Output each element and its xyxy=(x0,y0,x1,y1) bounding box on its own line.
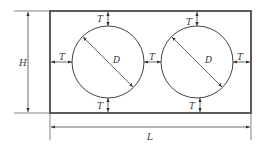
thickness-left: T xyxy=(51,52,72,62)
thickness-right: T xyxy=(233,52,250,62)
diagram-canvas: H L D D T T T T T T xyxy=(0,0,263,151)
thickness-top-left: T xyxy=(97,12,108,26)
thickness-top-right: T xyxy=(186,12,197,27)
svg-text:D: D xyxy=(112,55,120,65)
height-dimension: H xyxy=(14,11,50,113)
svg-text:T: T xyxy=(97,14,104,24)
svg-text:T: T xyxy=(149,52,156,62)
length-label: L xyxy=(146,132,153,142)
svg-text:D: D xyxy=(204,55,212,65)
svg-text:T: T xyxy=(189,101,196,111)
diameter-right: D xyxy=(172,37,222,87)
thickness-middle: T xyxy=(144,52,161,62)
svg-text:T: T xyxy=(186,17,193,27)
svg-text:T: T xyxy=(59,52,66,62)
height-label: H xyxy=(18,58,27,68)
thickness-bottom-right: T xyxy=(189,98,200,112)
diameter-left: D xyxy=(83,37,133,87)
svg-text:T: T xyxy=(237,52,244,62)
thickness-bottom-left: T xyxy=(97,98,108,112)
length-dimension: L xyxy=(50,113,251,142)
svg-text:T: T xyxy=(97,101,104,111)
